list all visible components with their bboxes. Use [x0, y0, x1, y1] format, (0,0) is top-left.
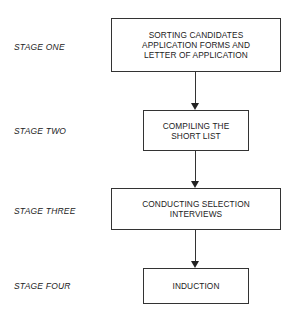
box-text-line: SHORT LIST — [163, 131, 230, 141]
box-text-line: LETTER OF APPLICATION — [142, 50, 250, 60]
connector-line — [195, 230, 196, 262]
box-text-line: INTERVIEWS — [142, 209, 250, 219]
stage-three-label: STAGE THREE — [14, 206, 76, 216]
arrow-down-icon — [191, 181, 199, 188]
arrow-down-icon — [191, 103, 199, 110]
connector-line — [195, 151, 196, 182]
connector-line — [195, 72, 196, 104]
stage-two-box: COMPILING THE SHORT LIST — [143, 110, 249, 151]
stage-four-box: INDUCTION — [143, 268, 249, 304]
box-text-line: INDUCTION — [173, 281, 220, 291]
box-text-line: APPLICATION FORMS AND — [142, 40, 250, 50]
box-text-line: COMPILING THE — [163, 121, 230, 131]
stage-three-box: CONDUCTING SELECTION INTERVIEWS — [111, 188, 281, 230]
stage-four-label: STAGE FOUR — [14, 281, 71, 291]
box-text-line: CONDUCTING SELECTION — [142, 199, 250, 209]
stage-one-box: SORTING CANDIDATES APPLICATION FORMS AND… — [111, 18, 281, 72]
box-text-line: SORTING CANDIDATES — [142, 30, 250, 40]
stage-one-label: STAGE ONE — [14, 42, 65, 52]
arrow-down-icon — [191, 261, 199, 268]
stage-two-label: STAGE TWO — [14, 126, 66, 136]
